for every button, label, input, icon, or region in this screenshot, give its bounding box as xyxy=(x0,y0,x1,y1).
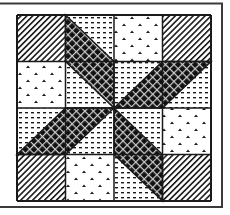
quilt-cell-motif xyxy=(17,62,66,109)
quilt-cell-hatch xyxy=(17,15,66,62)
quilt-cell-motif xyxy=(114,15,163,62)
quilt-cell-hatch xyxy=(163,155,212,202)
quilt-cell-hatch xyxy=(163,15,212,62)
quilt-block-figure xyxy=(0,0,230,215)
quilt-cell-motif xyxy=(66,155,115,202)
quilt-cell-motif xyxy=(163,108,212,155)
quilt-cell-hatch xyxy=(17,155,66,202)
